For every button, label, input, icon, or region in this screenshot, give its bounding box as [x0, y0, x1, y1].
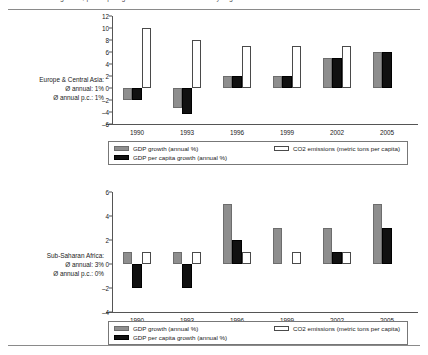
bar-co2 — [192, 40, 201, 88]
bar-gdp — [123, 88, 132, 100]
bar-co2 — [292, 46, 301, 88]
y-tick-mark — [109, 192, 112, 193]
bar-group: 1990 — [112, 16, 162, 124]
bar-pc — [182, 264, 191, 288]
bar-pc — [382, 52, 391, 88]
region-annual-pc-2: Ø annual p.c.: 0% — [4, 269, 104, 278]
bar-pc — [332, 252, 341, 264]
region-annual-pc-1: Ø annual p.c.: 1% — [4, 93, 104, 102]
bar-gdp — [223, 76, 232, 88]
plot-area-1: 199019931996199920022005 121086420–2–4–6 — [112, 16, 412, 124]
y-tick-label: –2 — [102, 285, 109, 292]
region-name-1: Europe & Central Asia: — [4, 75, 104, 84]
legend-entry-gdp-2: GDP growth (annual %) — [114, 325, 274, 332]
bar-gdp — [173, 88, 182, 108]
legend-swatch-gdp-icon — [114, 326, 129, 332]
legend-entry-co2-1: CO2 emissions (metric tons per capita) — [274, 145, 400, 152]
y-tick-mark — [109, 76, 112, 77]
bar-pc — [132, 88, 141, 100]
y-tick-mark — [109, 112, 112, 113]
bar-group: 1993 — [162, 192, 212, 312]
bar-pc — [182, 88, 191, 114]
region-annotation-1: Europe & Central Asia: Ø annual: 1% Ø an… — [4, 75, 104, 102]
bar-groups-2: 199019931996199920022005 — [112, 192, 412, 312]
bar-co2 — [142, 28, 151, 88]
bar-co2 — [192, 252, 201, 264]
legend-entry-gdp-1: GDP growth (annual %) — [114, 145, 274, 152]
x-tick-label: 1993 — [180, 129, 194, 136]
clipped-header-text: growth, per capita growth and CO2 emissi… — [60, 0, 390, 2]
y-tick-label: –4 — [102, 309, 109, 316]
bar-group: 2002 — [312, 192, 362, 312]
bar-group: 2005 — [362, 16, 412, 124]
y-tick-label: 12 — [102, 13, 109, 20]
bar-co2 — [242, 46, 251, 88]
region-annual-2: Ø annual: 3% — [4, 260, 104, 269]
y-tick-label: –4 — [102, 109, 109, 116]
y-tick-mark — [109, 216, 112, 217]
legend-label-gdp-1: GDP growth (annual %) — [133, 145, 198, 152]
y-tick-mark — [109, 40, 112, 41]
y-tick-label: –2 — [102, 97, 109, 104]
bar-group: 1996 — [212, 16, 262, 124]
bar-gdp — [373, 204, 382, 264]
bar-gdp — [373, 52, 382, 88]
bar-pc — [132, 264, 141, 288]
bar-co2 — [342, 252, 351, 264]
bar-group: 1993 — [162, 16, 212, 124]
y-tick-mark — [109, 240, 112, 241]
y-tick-mark — [109, 52, 112, 53]
legend-entry-pc-1: GDP per capita growth (annual %) — [114, 154, 274, 161]
y-tick-label: –6 — [102, 121, 109, 128]
legend-entry-co2-2: CO2 emissions (metric tons per capita) — [274, 325, 400, 332]
x-axis-1 — [106, 124, 418, 125]
legend-row-1a: GDP growth (annual %) CO2 emissions (met… — [114, 144, 402, 153]
chart-page: growth, per capita growth and CO2 emissi… — [0, 0, 428, 355]
x-tick-label: 1996 — [230, 129, 244, 136]
legend-2: GDP growth (annual %) CO2 emissions (met… — [108, 321, 408, 345]
bar-gdp — [123, 252, 132, 264]
legend-1: GDP growth (annual %) CO2 emissions (met… — [108, 141, 408, 165]
y-tick-mark — [109, 16, 112, 17]
bar-group: 1999 — [262, 16, 312, 124]
bar-co2 — [292, 252, 301, 264]
bar-groups-1: 199019931996199920022005 — [112, 16, 412, 124]
y-tick-mark — [109, 312, 112, 313]
y-tick-mark — [109, 100, 112, 101]
legend-swatch-co2-icon — [274, 326, 289, 332]
x-tick-label: 1999 — [280, 129, 294, 136]
region-name-2: Sub-Saharan Africa: — [4, 251, 104, 260]
legend-entry-pc-2: GDP per capita growth (annual %) — [114, 334, 274, 341]
bar-group: 1999 — [262, 192, 312, 312]
bar-pc — [282, 76, 291, 88]
bar-co2 — [242, 252, 251, 264]
legend-label-gdp-2: GDP growth (annual %) — [133, 325, 198, 332]
region-annotation-2: Sub-Saharan Africa: Ø annual: 3% Ø annua… — [4, 251, 104, 278]
top-divider — [8, 9, 420, 10]
bar-gdp — [323, 228, 332, 264]
legend-swatch-pc-icon — [114, 155, 129, 161]
y-tick-mark — [109, 264, 112, 265]
bar-group: 1990 — [112, 192, 162, 312]
bar-group: 1996 — [212, 192, 262, 312]
bar-co2 — [142, 252, 151, 264]
bar-group: 2002 — [312, 16, 362, 124]
x-tick-label: 2002 — [330, 129, 344, 136]
legend-label-co2-1: CO2 emissions (metric tons per capita) — [293, 145, 400, 152]
bar-co2 — [342, 46, 351, 88]
y-tick-mark — [109, 288, 112, 289]
y-tick-label: 10 — [102, 25, 109, 32]
bar-pc — [232, 240, 241, 264]
region-annual-1: Ø annual: 1% — [4, 84, 104, 93]
legend-label-co2-2: CO2 emissions (metric tons per capita) — [293, 325, 400, 332]
bar-gdp — [173, 252, 182, 264]
bar-pc — [332, 58, 341, 88]
x-tick-label: 2005 — [380, 129, 394, 136]
bottom-divider — [8, 345, 420, 346]
y-tick-mark — [109, 88, 112, 89]
legend-swatch-pc-icon — [114, 335, 129, 341]
bar-pc — [232, 76, 241, 88]
x-tick-label: 1990 — [130, 129, 144, 136]
y-tick-mark — [109, 124, 112, 125]
bar-pc — [382, 228, 391, 264]
